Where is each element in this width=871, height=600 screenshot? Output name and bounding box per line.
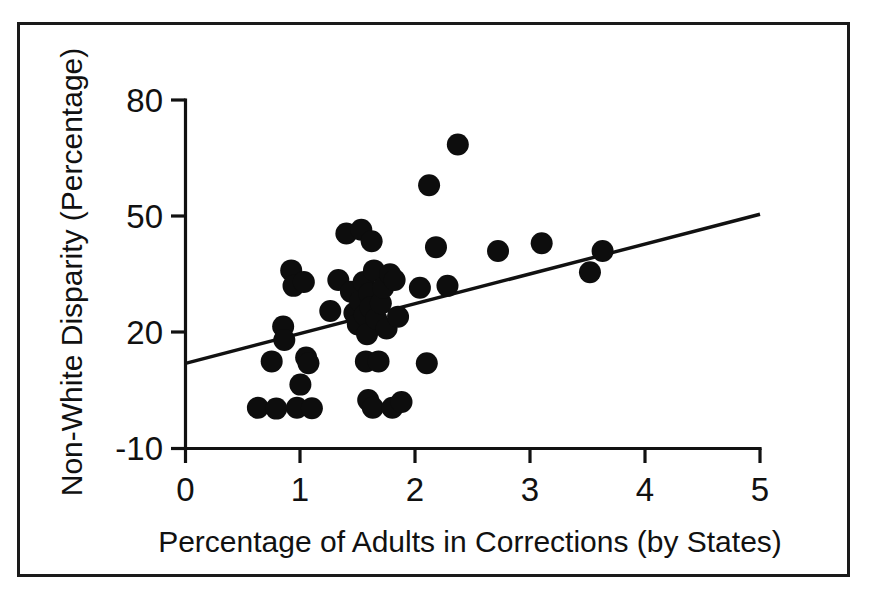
data-point xyxy=(297,352,319,374)
data-point xyxy=(301,397,323,419)
data-point xyxy=(265,398,287,420)
y-tick-label-80: 80 xyxy=(126,82,163,119)
data-point xyxy=(436,275,458,297)
x-tick-label-3: 3 xyxy=(521,471,539,508)
y-tick-label-20: 20 xyxy=(126,314,163,351)
data-point xyxy=(362,397,384,419)
scatter-plot: 80 50 20 -10 0 1 2 3 4 5 Percentage of A… xyxy=(0,0,871,600)
data-point xyxy=(409,277,431,299)
data-point xyxy=(387,306,409,328)
data-point xyxy=(416,352,438,374)
data-point xyxy=(384,269,406,291)
data-point xyxy=(319,300,341,322)
y-axis-title: Non-White Disparity (Percentage) xyxy=(55,48,88,497)
data-point xyxy=(447,134,469,156)
data-point xyxy=(592,240,614,262)
x-axis-ticks xyxy=(186,449,761,464)
data-point xyxy=(361,230,383,252)
data-point xyxy=(425,236,447,258)
x-axis-title: Percentage of Adults in Corrections (by … xyxy=(158,525,782,558)
data-points-group xyxy=(247,134,614,420)
data-point xyxy=(289,374,311,396)
trend-line xyxy=(186,214,761,363)
figure-root: 80 50 20 -10 0 1 2 3 4 5 Percentage of A… xyxy=(0,0,871,600)
data-point xyxy=(487,240,509,262)
data-point xyxy=(418,174,440,196)
x-tick-label-2: 2 xyxy=(406,471,424,508)
x-tick-label-1: 1 xyxy=(291,471,309,508)
data-point xyxy=(579,261,601,283)
data-point xyxy=(368,350,390,372)
x-tick-label-0: 0 xyxy=(176,471,194,508)
data-point xyxy=(261,350,283,372)
data-point xyxy=(273,329,295,351)
data-point xyxy=(391,391,413,413)
x-tick-label-4: 4 xyxy=(636,471,654,508)
y-axis-ticks xyxy=(171,100,186,449)
x-tick-label-5: 5 xyxy=(751,471,769,508)
y-tick-label-minus10: -10 xyxy=(115,430,163,467)
data-point xyxy=(531,232,553,254)
y-tick-label-50: 50 xyxy=(126,198,163,235)
data-point xyxy=(293,271,315,293)
